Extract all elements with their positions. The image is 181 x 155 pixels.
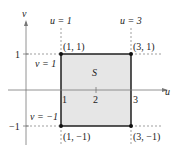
- uv-plane-diagram: u v 1 2 3 1 −1 S u = 1 u = 3 v = 1 v = −…: [0, 0, 181, 155]
- vertex-label-3-neg1: (3, −1): [133, 131, 160, 143]
- tick-label-u-3: 3: [133, 94, 138, 105]
- tick-label-u-1: 1: [62, 94, 67, 105]
- u-axis-label: u: [165, 86, 170, 97]
- vertex-3-1: [129, 52, 133, 56]
- label-u-eq-3: u = 3: [120, 15, 142, 26]
- label-v-eq-1: v = 1: [35, 58, 56, 69]
- vertex-1-neg1: [59, 124, 63, 128]
- vertex-3-neg1: [129, 124, 133, 128]
- vertex-1-1: [59, 52, 63, 56]
- vertex-label-1-1: (1, 1): [63, 41, 85, 53]
- tick-label-v-1: 1: [15, 49, 20, 60]
- tick-label-u-2: 2: [93, 94, 98, 105]
- v-axis-arrow-icon: [24, 20, 28, 26]
- label-u-eq-1: u = 1: [50, 15, 72, 26]
- v-axis-label: v: [22, 8, 27, 19]
- label-v-eq-neg1: v = −1: [30, 111, 58, 122]
- tick-label-v-neg1: −1: [9, 121, 20, 132]
- region-label: S: [92, 67, 97, 78]
- vertex-label-3-1: (3, 1): [133, 41, 155, 53]
- vertex-label-1-neg1: (1, −1): [63, 131, 90, 143]
